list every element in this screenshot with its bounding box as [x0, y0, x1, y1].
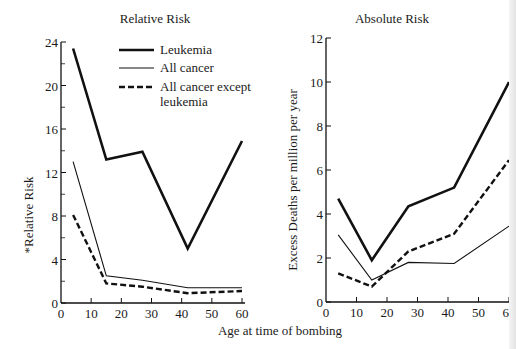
y-tick-label: 24 — [45, 35, 59, 50]
x-tick-label: 30 — [145, 306, 158, 321]
y-tick-label: 4 — [317, 207, 324, 222]
right-series — [338, 82, 509, 287]
y-tick-label: 6 — [317, 163, 324, 178]
y-tick-label: 12 — [310, 31, 323, 46]
series-line-leukemia — [338, 82, 509, 260]
x-tick-label: 20 — [115, 306, 128, 321]
y-tick-label: 4 — [52, 253, 59, 268]
legend: Leukemia All cancer All cancer except le… — [119, 42, 251, 109]
left-y-axis-label: *Relative Risk — [21, 176, 36, 253]
y-tick-label: 10 — [310, 75, 323, 90]
y-tick-label: 2 — [317, 251, 324, 266]
x-tick-label: 0 — [58, 306, 65, 321]
x-tick-label: 30 — [411, 305, 424, 320]
y-tick-label: 8 — [317, 119, 324, 134]
x-tick-label: 10 — [85, 306, 98, 321]
x-tick-label: 20 — [381, 305, 394, 320]
x-tick-label: 0 — [323, 305, 330, 320]
x-tick-label: 40 — [175, 306, 188, 321]
left-chart-title: Relative Risk — [120, 11, 191, 26]
series-line-all-cancer-except-leukemia — [338, 160, 509, 287]
left-axes: 048121620240102030405060 — [45, 35, 249, 321]
x-tick-label: 50 — [472, 305, 485, 320]
y-tick-label: 12 — [45, 166, 58, 181]
y-tick-label: 8 — [52, 209, 59, 224]
right-axes: 0246810120102030405060 — [310, 31, 516, 320]
right-chart-title: Absolute Risk — [355, 11, 430, 26]
legend-leukemia-label: Leukemia — [160, 42, 212, 57]
legend-all-cancer-label: All cancer — [160, 60, 214, 75]
legend-except-leukemia-label-2: leukemia — [160, 94, 208, 109]
chart-canvas: Relative Risk Absolute Risk *Relative Ri… — [0, 0, 516, 349]
series-line-all-cancer-except-leukemia — [73, 215, 242, 293]
x-tick-label: 50 — [205, 306, 218, 321]
x-tick-label: 40 — [442, 305, 455, 320]
x-axis-label: Age at time of bombing — [218, 323, 343, 338]
x-tick-label: 60 — [236, 306, 249, 321]
y-tick-label: 20 — [45, 79, 58, 94]
y-tick-label: 16 — [45, 122, 59, 137]
page-edge-shadow — [509, 0, 516, 349]
legend-except-leukemia-label-1: All cancer except — [160, 79, 251, 94]
right-y-axis-label: Excess Deaths per million per year — [285, 89, 300, 271]
x-tick-label: 10 — [350, 305, 363, 320]
series-line-all-cancer — [338, 226, 509, 280]
